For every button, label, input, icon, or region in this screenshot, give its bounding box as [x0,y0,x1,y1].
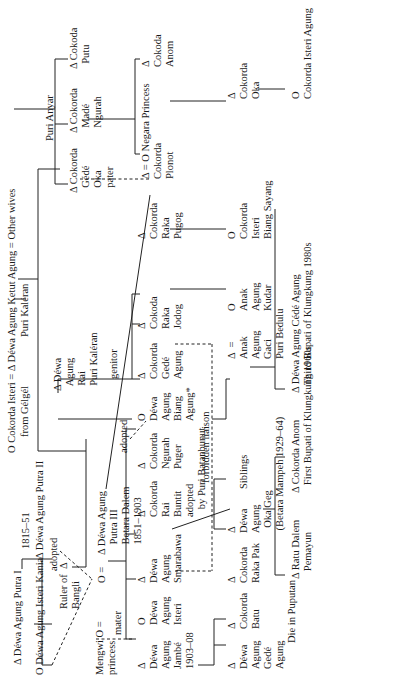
adopted-label-2: adopted [118,420,130,453]
gen3-raka-pugog: ΔCokordaRakaPugog [136,203,184,239]
gen4-anak-agung-gaci: Δ =AnakAgungGaciPuri Bedulu [226,309,286,359]
gen3-raka-jodog: ΔCokodaRakaJodog [136,296,184,329]
putra-ii-years: 1815–51 [20,512,32,549]
gen4-cokorda-batu: ΔCokordaBatu [226,593,262,629]
gen3-cokorda-plonot: Δ = O Negara PrincessCokordaPlonot [140,84,176,179]
forbidden-liaison: forbidden liaison [200,412,212,483]
puri-kaleran: Puri Kaléran [19,284,31,337]
putra-i: Δ Déwa Agung Putra I [12,570,24,665]
other-wives: Other wives [6,189,17,240]
ruler-bangli: Ruler of ΔBangli [58,562,82,609]
gen3-biang-agung: ODéwaAgungBiangAgung* [136,387,196,421]
gen3-cokoda-anom: ΔCokodaAnom [140,34,176,67]
genealogy-diagram: O Cokorda Isteri = Δ Déwa Agung Ketut Ag… [0,0,417,679]
gen4-anak-agung-kudar: OAnakAgungKudar [226,282,274,311]
cokorda-made-ngurah: Δ Cokorda Madé Ngurah [68,88,104,133]
siblings-label: Siblings [238,455,250,489]
die-in-puputan: Die in Puputan [286,580,298,643]
gen3-smarabawa: ΔDéwaAgungSmarabawa [136,534,184,583]
gen5-ratu-dalem: Δ Ratu Dalem Pemayun [290,520,314,579]
gen3-isteri: ODéwaAgungIsteri [136,596,184,625]
gen5-cokorda-isteri-agung: OCokorda Isteri Agung [290,8,314,99]
gen4-cokorda-oka: ΔCokordaOka [226,63,262,99]
gen3-gede-agung: ΔCokordaGedéAgung [136,343,184,379]
gen4-raka-pak: ΔCokordaRaka Pak [226,543,262,583]
cokorda-gede-oka: Δ Cokorda Gédé Oka pater [68,148,116,193]
puri-anyar-label: Puri Anyar [44,95,56,141]
gen3-jambe: ΔDéwaAgungJambé1903–08 [136,632,196,669]
putra-ii: Δ Déwa Agung Putra II [34,461,46,559]
ketut-agung-name: Δ Déwa Agung Ketut Agung [6,251,17,372]
dewa-agung-rai: Δ Déwa Agung Rai Puri Kaléran [52,332,100,391]
gen3-ngurah-puger: ΔCokordaNgurahPuger [136,433,184,469]
mater-label: mater [112,611,124,635]
gen5-cede-agung: Δ Déwa Agung Cédé Agung Third Bupati of … [290,242,314,393]
cokorda-putu: Δ Cokoda Putu [68,28,92,69]
gen4-cokorda-isteri-biang: OCokordaIsteriBiang Sayang [226,180,274,239]
isteri-kania: O Déwa Agung Isteri Kania [34,558,46,675]
cokorda-isteri-gelgel: O Cokorda Isteri = Δ Déwa Agung Ketut Ag… [6,189,18,453]
genitor-label: genitor [108,349,120,379]
gen4-dewa-agung-gede: ΔDéwaAgungGedéAgung [226,640,286,669]
female-marriage: O = [96,567,108,583]
gen4-oka-geg: ΔDéwaAgung Oka Geg (Betara Mampeh 1929–6… [226,417,286,533]
from-gelgel: from Gélgél [19,386,31,437]
